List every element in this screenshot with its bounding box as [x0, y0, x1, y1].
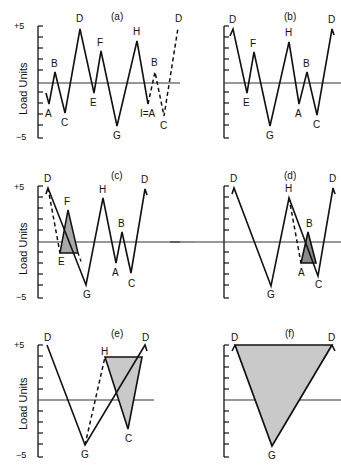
load-history-line: [46, 188, 147, 285]
point-label: G: [113, 130, 121, 141]
extracted-cycle-hc: [105, 357, 142, 429]
y-tick-bottom: −5: [16, 450, 26, 460]
point-label: A: [298, 267, 305, 278]
point-label: D: [44, 332, 51, 343]
point-label: F: [64, 196, 70, 207]
arrow-tip-right: [332, 345, 335, 351]
y-axis: [38, 26, 43, 138]
point-label: B: [151, 57, 158, 68]
panel-title: (e): [111, 328, 123, 339]
point-label: F: [97, 37, 103, 48]
arrow-tip-left: [232, 345, 235, 351]
point-label: A: [295, 108, 302, 119]
point-label: E: [243, 97, 250, 108]
panel-f: (f) D D G: [224, 328, 341, 461]
point-label: G: [83, 289, 91, 300]
y-axis: [224, 26, 229, 138]
point-label: D: [175, 13, 182, 24]
panel-title: (b): [284, 11, 296, 22]
point-label: D: [230, 173, 237, 184]
point-label: B: [306, 218, 313, 229]
point-label: H: [99, 184, 106, 195]
load-history-line: [230, 29, 334, 126]
point-label: C: [315, 279, 322, 290]
point-label: D: [142, 332, 149, 343]
point-label: D: [141, 174, 148, 185]
dashed-reconnect-line: [85, 357, 105, 445]
y-axis-label: Load Units: [17, 222, 29, 275]
point-label: D: [76, 13, 83, 24]
load-history-line: [232, 188, 335, 286]
panel-title: (c): [111, 170, 123, 181]
panel-e: +5 −5 Load Units (e) D H G C D: [14, 328, 154, 460]
panel-title: (f): [285, 328, 294, 339]
dashed-continuation: [78, 253, 82, 264]
point-label: D: [44, 173, 51, 184]
point-label: G: [266, 130, 274, 141]
point-label: B: [118, 218, 125, 229]
point-label: B: [51, 58, 58, 69]
point-label: H: [133, 26, 140, 37]
point-label: C: [160, 120, 167, 131]
y-tick-top: +5: [14, 182, 24, 192]
point-label: H: [285, 183, 292, 194]
dashed-reconnect-line: [48, 188, 60, 253]
y-axis-label: Load Units: [17, 62, 29, 115]
point-label: I=A: [140, 108, 156, 119]
point-label: G: [267, 289, 275, 300]
panel-b: (b) D E F G H A B C D: [224, 11, 341, 141]
extracted-cycle-dgd: [235, 345, 332, 446]
point-label: C: [61, 117, 68, 128]
point-label: E: [58, 256, 65, 267]
rainflow-counting-diagram: +5 −5 Load Units (a) A B C D E F G H I=A…: [0, 0, 341, 470]
point-label: E: [90, 97, 97, 108]
y-tick-bottom: −5: [16, 132, 26, 142]
panel-a: +5 −5 Load Units (a) A B C D E F G H I=A…: [14, 11, 182, 142]
point-label: C: [128, 278, 135, 289]
point-label: G: [268, 450, 276, 461]
panel-title: (d): [284, 170, 296, 181]
point-label: D: [328, 332, 335, 343]
point-label: C: [125, 433, 132, 444]
point-label: A: [45, 108, 52, 119]
point-label: D: [231, 332, 238, 343]
y-tick-bottom: −5: [16, 292, 26, 302]
point-label: D: [229, 14, 236, 25]
point-label: G: [81, 449, 89, 460]
point-label: D: [329, 173, 336, 184]
y-axis-label: Load Units: [17, 377, 29, 430]
point-label: F: [250, 38, 256, 49]
extracted-cycle-ef: [60, 210, 78, 253]
point-label: H: [101, 346, 108, 357]
panel-c: +5 −5 Load Units (c) D E F G H A B C D: [14, 170, 180, 302]
panel-title: (a): [111, 11, 123, 22]
point-label: C: [313, 119, 320, 130]
point-label: A: [112, 267, 119, 278]
repeat-history-dashed-line: [148, 28, 178, 116]
dashed-reconnect-line: [289, 198, 301, 263]
point-label: H: [285, 27, 292, 38]
panel-d: (d) D G H A B C D: [170, 170, 341, 300]
y-tick-top: +5: [14, 340, 24, 350]
point-label: B: [303, 58, 310, 69]
y-axis: [224, 345, 229, 457]
y-axis: [38, 345, 43, 457]
point-label: D: [328, 14, 335, 25]
y-tick-top: +5: [14, 21, 24, 31]
